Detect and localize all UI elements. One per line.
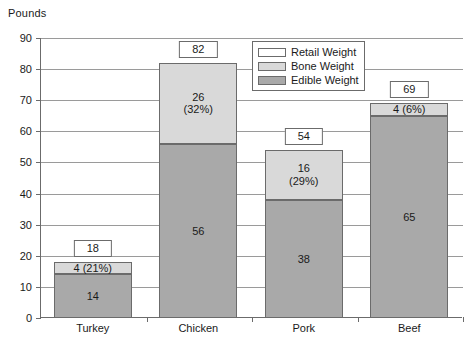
y-axis-tick-label: 90 xyxy=(4,32,32,44)
bar-segment-bone-turkey[interactable]: 4 (21%) xyxy=(54,262,132,274)
legend-label-bone-weight: Bone Weight xyxy=(291,60,354,72)
bar-value-edible: 14 xyxy=(87,290,99,303)
legend-label-edible-weight: Edible Weight xyxy=(291,74,359,86)
x-axis-tick xyxy=(252,317,253,322)
legend-item-edible-weight: Edible Weight xyxy=(258,73,359,87)
bar-total-label-chicken: 82 xyxy=(179,41,217,58)
bar-total-label-beef: 69 xyxy=(390,81,428,98)
y-axis-tick-label: 80 xyxy=(4,63,32,75)
y-axis-title: Pounds xyxy=(8,7,47,19)
bar-value-edible: 38 xyxy=(298,253,310,266)
x-axis-label-chicken: Chicken xyxy=(178,322,218,334)
legend-swatch-edible-weight xyxy=(258,76,286,85)
bar-segment-bone-pork[interactable]: 16(29%) xyxy=(265,150,343,200)
bar-group-beef[interactable]: 654 (6%)69 xyxy=(370,38,448,318)
x-axis-tick xyxy=(358,317,359,322)
y-axis-tick xyxy=(36,225,41,226)
legend-swatch-bone-weight xyxy=(258,62,286,71)
bar-value-bone: 4 (6%) xyxy=(393,103,425,116)
y-axis-tick xyxy=(36,287,41,288)
bar-total-label-turkey: 18 xyxy=(74,240,112,257)
y-axis-tick-label: 70 xyxy=(4,94,32,106)
bar-value-edible: 56 xyxy=(192,225,204,238)
y-axis-tick-label: 10 xyxy=(4,281,32,293)
y-axis-tick xyxy=(36,38,41,39)
x-axis-tick xyxy=(463,317,464,322)
y-axis-tick xyxy=(36,194,41,195)
y-axis-tick-label: 30 xyxy=(4,219,32,231)
bar-segment-edible-beef[interactable]: 65 xyxy=(370,116,448,318)
legend-label-retail-weight: Retail Weight xyxy=(291,46,356,58)
x-axis-label-beef: Beef xyxy=(398,322,421,334)
bar-segment-bone-chicken[interactable]: 26(32%) xyxy=(159,63,237,144)
legend-item-bone-weight: Bone Weight xyxy=(258,59,359,73)
bar-total-label-pork: 54 xyxy=(285,128,323,145)
y-axis-tick-label: 50 xyxy=(4,156,32,168)
bar-value-bone: 4 (21%) xyxy=(73,262,112,275)
bar-segment-edible-chicken[interactable]: 56 xyxy=(159,144,237,318)
y-axis-tick xyxy=(36,318,41,319)
y-axis-tick-label: 0 xyxy=(4,312,32,324)
bar-value-edible: 65 xyxy=(403,211,415,224)
x-axis-tick xyxy=(147,317,148,322)
bar-group-turkey[interactable]: 144 (21%)18 xyxy=(54,38,132,318)
y-axis-tick-label: 60 xyxy=(4,125,32,137)
y-axis-tick xyxy=(36,100,41,101)
legend-swatch-retail-weight xyxy=(258,48,286,57)
y-axis-tick xyxy=(36,69,41,70)
y-axis-tick xyxy=(36,256,41,257)
x-axis-label-pork: Pork xyxy=(292,322,315,334)
y-axis-tick-label: 40 xyxy=(4,188,32,200)
bar-segment-edible-pork[interactable]: 38 xyxy=(265,200,343,318)
y-axis-tick-label: 20 xyxy=(4,250,32,262)
y-axis-tick xyxy=(36,162,41,163)
bar-group-chicken[interactable]: 5626(32%)82 xyxy=(159,38,237,318)
bar-segment-edible-turkey[interactable]: 14 xyxy=(54,274,132,318)
bar-value-bone: 26(32%) xyxy=(184,91,213,116)
bar-segment-bone-beef[interactable]: 4 (6%) xyxy=(370,103,448,115)
y-axis-tick xyxy=(36,131,41,132)
stacked-bar-chart: Pounds 0102030405060708090 TurkeyChicken… xyxy=(0,0,476,345)
x-axis-label-turkey: Turkey xyxy=(76,322,109,334)
chart-legend: Retail Weight Bone Weight Edible Weight xyxy=(252,41,365,91)
legend-item-retail-weight: Retail Weight xyxy=(258,45,359,59)
bar-value-bone: 16(29%) xyxy=(289,162,318,187)
